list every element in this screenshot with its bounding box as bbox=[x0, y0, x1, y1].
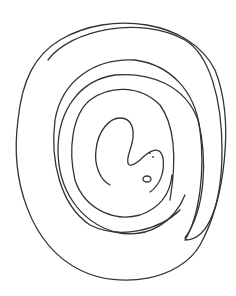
snake-eye-icon bbox=[143, 176, 151, 182]
outer-coil bbox=[16, 23, 225, 280]
inner-coil bbox=[72, 89, 174, 217]
snake-spiral-drawing bbox=[0, 0, 236, 296]
second-coil bbox=[48, 27, 222, 240]
middle-coil bbox=[58, 75, 204, 238]
snake-head bbox=[96, 118, 164, 192]
nostril-dot bbox=[152, 156, 154, 158]
spiral-canvas bbox=[0, 0, 236, 296]
nostril-dot bbox=[149, 152, 151, 154]
